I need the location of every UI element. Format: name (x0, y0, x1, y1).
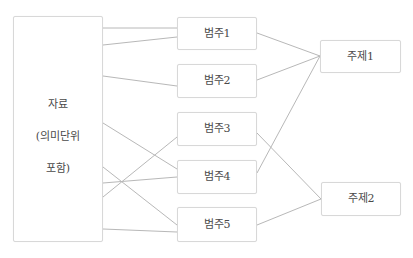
theme-label-2: 주제2 (348, 191, 375, 207)
source-line-1: 자료 (48, 98, 68, 111)
edge-data-cat4 (103, 177, 177, 183)
edge-cat1-theme1 (257, 33, 320, 56)
category-box-5: 범주5 (177, 207, 257, 242)
edge-cat5-theme2 (257, 199, 321, 225)
category-box-1: 범주1 (177, 17, 257, 50)
category-label-4: 범주4 (204, 169, 231, 185)
source-data-box: 자료 (의미단위 포함) (13, 16, 103, 242)
theme-label-1: 주제1 (347, 49, 374, 65)
category-label-5: 범주5 (204, 217, 231, 233)
diagram-canvas: 자료 (의미단위 포함) 범주1 범주2 범주3 범주4 범주5 주제1 주제2 (0, 0, 413, 258)
category-label-2: 범주2 (204, 73, 231, 89)
edge-cat2-theme1 (257, 56, 320, 80)
edge-data-cat5 (103, 167, 177, 225)
source-line-3: 포함) (46, 162, 70, 175)
edge-data-cat1 (103, 37, 177, 45)
source-line-2: (의미단위 (36, 130, 80, 143)
edge-cat3-theme2 (257, 133, 321, 199)
category-box-3: 범주3 (177, 112, 257, 146)
edge-data-cat5 (103, 229, 177, 232)
source-data-label: 자료 (의미단위 포함) (36, 81, 80, 177)
edge-cat4-theme1 (257, 56, 320, 173)
edge-data-cat2 (103, 76, 177, 86)
theme-box-2: 주제2 (321, 182, 401, 216)
theme-box-1: 주제1 (320, 40, 401, 73)
category-box-4: 범주4 (177, 160, 257, 194)
category-label-3: 범주3 (204, 121, 231, 137)
category-label-1: 범주1 (204, 26, 231, 42)
category-box-2: 범주2 (177, 64, 257, 98)
